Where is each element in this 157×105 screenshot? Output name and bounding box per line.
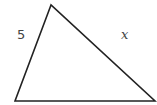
- triangle: [15, 5, 155, 101]
- right-side-label: x: [121, 27, 129, 42]
- triangle-diagram: 5 x: [0, 0, 157, 105]
- left-side-label: 5: [17, 27, 25, 42]
